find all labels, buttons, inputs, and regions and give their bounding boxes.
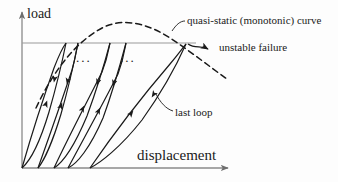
ellipsis-second: ... (120, 50, 136, 66)
hysteresis-loop-2 (38, 43, 78, 168)
load-displacement-diagram: load displacement quasi-static (monotoni… (0, 0, 338, 182)
unstable-failure-arrow (188, 44, 208, 49)
loading-branch (38, 43, 78, 168)
quasi-static-curve-label: quasi-static (monotonic) curve (187, 15, 321, 26)
last-loop-label: last loop (175, 107, 213, 118)
unloading-branch (38, 43, 78, 168)
x-axis-label: displacement (137, 148, 216, 163)
loading-arrow (118, 111, 133, 130)
unloading-arrow (97, 62, 104, 85)
axis-group (22, 12, 228, 168)
loading-arrow (40, 101, 47, 120)
last-loop-leader (156, 94, 173, 111)
ellipsis-first: ... (76, 50, 92, 66)
unstable-failure-label: unstable failure (219, 42, 287, 53)
y-axis-label: load (27, 7, 51, 21)
quasi-static-leader (172, 21, 185, 31)
